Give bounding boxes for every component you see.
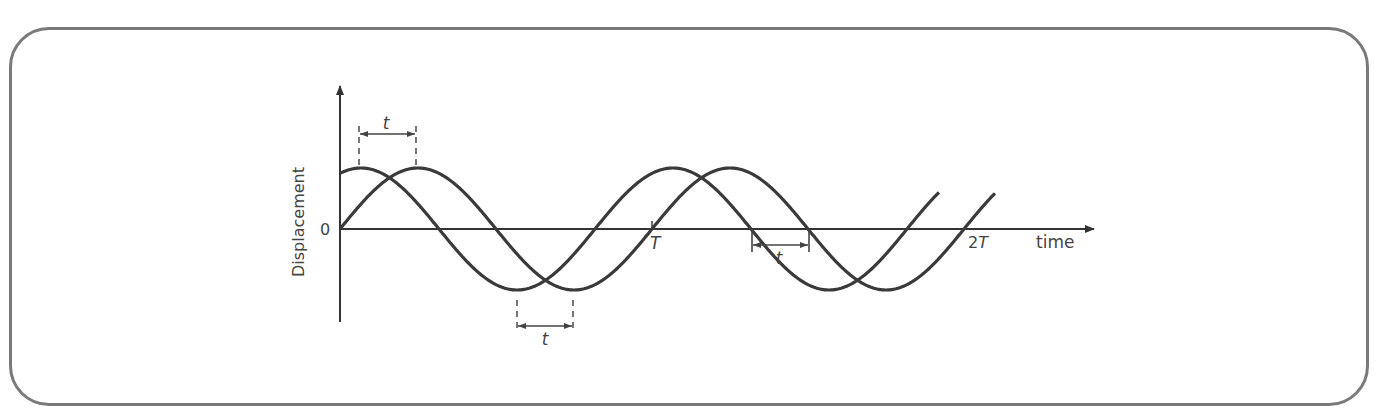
y-axis-label: Displacement <box>289 167 308 277</box>
phase-annotation-crossings: t <box>752 229 809 268</box>
phase-annotation-troughs: t <box>517 300 573 349</box>
phase-annotation-peaks: t <box>359 113 416 165</box>
phase-label-bottom: t <box>542 329 550 349</box>
tick-label-T: T <box>650 233 662 253</box>
tick-label-2T: 2T <box>968 233 989 252</box>
phase-label-top: t <box>383 113 391 133</box>
wave-diagram: t t t T 2T 0 time Displacement <box>0 0 1378 414</box>
x-axis-label: time <box>1036 232 1074 252</box>
origin-label: 0 <box>320 220 330 239</box>
